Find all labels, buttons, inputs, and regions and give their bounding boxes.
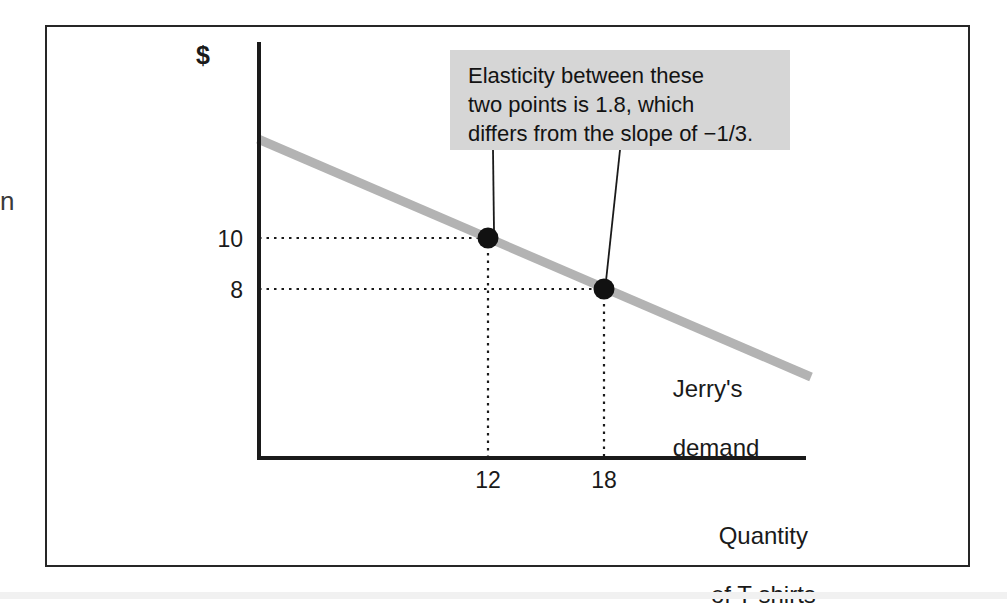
leader-line-point-b [606, 150, 620, 281]
y-tick-label-10: 10 [211, 225, 243, 253]
x-axis-title: Quantity of T-shirts [660, 492, 840, 604]
demand-curve [258, 139, 811, 377]
scan-artifact-strip [0, 592, 1007, 599]
demand-curve-label-line1: Jerry's [673, 375, 743, 402]
annotation-callout-box: Elasticity between these two points is 1… [450, 50, 790, 150]
annotation-text: Elasticity between these two points is 1… [468, 61, 790, 148]
y-tick-label-8: 8 [211, 276, 243, 304]
leader-line-point-a [493, 150, 494, 231]
x-axis-title-line1: Quantity [719, 522, 808, 549]
data-point-b [594, 279, 615, 300]
data-point-a [478, 228, 499, 249]
x-tick-label-12: 12 [458, 466, 518, 494]
demand-curve-label-line2: demand [673, 434, 760, 461]
y-axis-title: $ [196, 40, 210, 71]
page-edge-text-fragment: n [0, 186, 14, 217]
figure-container: $ 10 8 12 18 Quantity of T-shirts Jerry'… [0, 0, 1007, 604]
guide-lines [259, 238, 604, 457]
x-tick-label-18: 18 [574, 466, 634, 494]
demand-curve-label: Jerry's demand [646, 345, 836, 491]
